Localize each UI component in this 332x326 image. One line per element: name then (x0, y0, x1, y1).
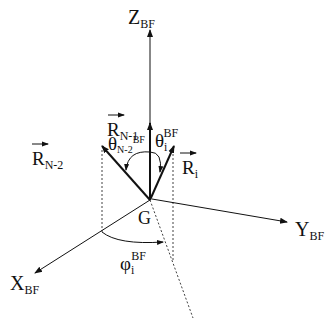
projection-r-i-xy (150, 200, 193, 318)
phi-arc (102, 232, 163, 243)
phi-i-label: φiBF (120, 249, 146, 277)
vector-r-i-label: Ri (182, 157, 199, 181)
origin-label: G (138, 208, 151, 228)
diagram-canvas: ZBF YBF XBF G RN-1 RN-2 Ri θN-2BF θiBF φ… (0, 0, 332, 326)
vector-r-n2-label: RN-2 (32, 148, 63, 172)
x-axis-label: XBF (10, 272, 39, 297)
z-axis-label: ZBF (128, 6, 155, 31)
y-axis (152, 199, 287, 222)
vector-r-i (150, 146, 174, 200)
theta-i-label: θiBF (155, 126, 178, 154)
y-axis-label: YBF (295, 218, 324, 243)
theta-i-arc (150, 152, 161, 172)
